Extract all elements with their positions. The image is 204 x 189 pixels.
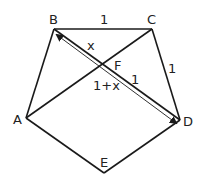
edge-ab xyxy=(26,29,54,118)
pentagon-diagram: B C A D E F 1 1 x 1 1+x xyxy=(0,0,204,189)
length-label-cd: 1 xyxy=(168,61,176,76)
vertex-label-d: D xyxy=(183,114,193,129)
edge-ea xyxy=(26,118,104,173)
diagonal-bd xyxy=(54,29,180,120)
length-label-bc: 1 xyxy=(100,12,108,27)
length-label-bd: 1+x xyxy=(93,78,120,93)
length-label-fd: 1 xyxy=(131,72,139,87)
vertex-label-b: B xyxy=(49,12,58,27)
edge-de xyxy=(104,120,180,173)
intersection-label-f: F xyxy=(114,58,121,73)
vertex-label-c: C xyxy=(147,12,156,27)
vertex-label-e: E xyxy=(100,155,108,170)
vertex-label-a: A xyxy=(13,112,22,127)
length-label-bf: x xyxy=(87,38,95,53)
